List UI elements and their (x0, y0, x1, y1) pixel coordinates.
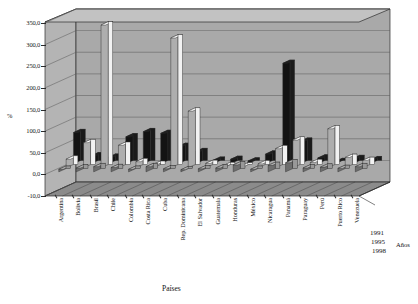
y-tick-mark (41, 174, 46, 175)
chart-top-face (45, 9, 390, 22)
y-tick-mark (41, 153, 46, 154)
bar-1995-Brasil (101, 22, 113, 168)
x-category-label: Puerto Rico (336, 198, 343, 227)
x-category-label: Nicaragua (266, 198, 273, 223)
y-tick-label: -10,0 (27, 192, 40, 199)
x-category-label: El Salvador (196, 198, 203, 226)
x-category-label: Bolivia (74, 198, 81, 216)
y-tick-label: 50,0 (29, 149, 40, 156)
y-tick-mark (41, 131, 46, 132)
y-tick-mark (41, 110, 46, 111)
bar-chart-3d (0, 0, 418, 304)
depth-axis-tick-1991 (359, 196, 375, 205)
x-category-label: Honduras (231, 198, 238, 222)
y-tick-label: 350,0 (26, 19, 40, 26)
y-tick-mark (41, 23, 46, 24)
bar-1995-Perú (328, 126, 340, 168)
x-category-label: Chile (109, 198, 116, 211)
y-tick-label: 250,0 (26, 62, 40, 69)
year-label-1998: 1998 (372, 247, 386, 255)
bar-1995-Chile (118, 142, 130, 168)
x-category-label: Costa Rica (144, 198, 151, 224)
x-category-label: Guatemala (214, 198, 221, 224)
x-category-label: Venezuela (353, 198, 360, 223)
y-axis-title: % (7, 112, 12, 119)
x-category-label: Panamá (284, 198, 291, 217)
x-category-label: Perú (318, 198, 325, 209)
y-tick-mark (41, 66, 46, 67)
x-category-label: Argentina (57, 198, 64, 222)
y-tick-mark (41, 88, 46, 89)
y-tick-mark (41, 196, 46, 197)
x-category-label: Cuba (161, 198, 168, 211)
x-category-label: Colombia (127, 198, 134, 222)
x-category-label: Paraguay (301, 198, 308, 221)
z-axis-title: Años (396, 241, 410, 248)
bar-1995-Rep. Dominicana (188, 108, 200, 168)
x-axis-title: Países (162, 284, 181, 293)
y-tick-label: 100,0 (26, 127, 40, 134)
year-label-1995: 1995 (371, 238, 385, 246)
y-tick-mark (41, 45, 46, 46)
x-category-label: Rep. Dominicana (179, 198, 186, 241)
bar-1995-Cuba (171, 35, 183, 168)
y-tick-label: 300,0 (26, 41, 40, 48)
chart-figure: 350,0300,0250,0200,0150,0100,050,00,0-10… (0, 0, 418, 304)
x-category-label: México (249, 198, 256, 217)
y-tick-label: 200,0 (26, 84, 40, 91)
x-category-label: Brasil (92, 198, 99, 212)
year-label-1991: 1991 (370, 229, 384, 237)
y-tick-label: 150,0 (26, 106, 40, 113)
y-tick-label: 0,0 (32, 170, 40, 177)
bar-1995-Bolivia (84, 139, 96, 167)
